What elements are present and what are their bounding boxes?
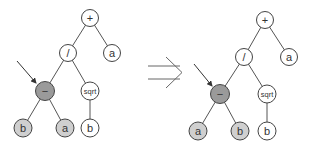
node-label: − [42, 85, 48, 97]
node-label: b [87, 122, 93, 134]
node-plus: + [257, 12, 274, 29]
node-divide: / [60, 45, 77, 62]
node-minus-selected: − [36, 82, 55, 101]
node-label: sqrt [261, 90, 274, 99]
node-label: a [195, 125, 202, 137]
node-minus-right-operand: a [56, 119, 74, 137]
node-label: a [286, 51, 293, 63]
node-minus-left-operand: b [14, 119, 32, 137]
node-plus: + [82, 10, 99, 27]
node-sqrt-child: b [81, 119, 99, 137]
node-label: sqrt [84, 87, 97, 96]
node-minus-selected: − [211, 85, 230, 104]
expression-tree-diagram: + / a − sqrt b a b [0, 0, 313, 149]
pointer-arrow-icon [194, 64, 212, 86]
node-label: b [20, 122, 26, 134]
node-label: b [237, 125, 243, 137]
node-minus-right-operand: b [231, 122, 249, 140]
node-label: + [262, 14, 268, 26]
node-sqrt: sqrt [81, 82, 99, 100]
tree-after: + / a − sqrt a b b [189, 12, 298, 141]
node-a-top: a [281, 49, 298, 66]
tree-before: + / a − sqrt b a b [14, 10, 121, 138]
node-label: a [62, 122, 69, 134]
node-label: + [87, 12, 93, 24]
transform-arrow-icon [148, 57, 182, 88]
node-divide: / [236, 49, 253, 66]
node-sqrt-child: b [258, 122, 276, 140]
node-label: − [217, 88, 223, 100]
node-label: b [264, 125, 270, 137]
node-label: a [109, 47, 116, 59]
node-a-top: a [104, 45, 121, 62]
node-sqrt: sqrt [258, 85, 276, 103]
pointer-arrow-icon [17, 61, 36, 83]
node-minus-left-operand: a [189, 122, 207, 140]
